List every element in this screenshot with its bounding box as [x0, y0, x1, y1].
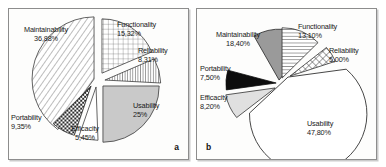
label-usability-a: Usability 25% [133, 102, 185, 119]
label-functionality-a: Functionality 15,32% [117, 21, 185, 38]
label-pct: 8,31% [138, 56, 190, 65]
label-text: Usability [133, 101, 159, 110]
label-maintainability-a: Maintainability 36,88% [15, 26, 77, 43]
label-functionality-b: Functionality 13,10% [298, 23, 362, 40]
label-usability-b: Usability 47,80% [307, 120, 365, 137]
pie-chart-panel-a: Maintainability 36,88% Functionality 15,… [8, 8, 189, 160]
label-text: Reliability [138, 46, 168, 55]
label-text: Usability [307, 119, 333, 128]
label-pct: 5,00% [329, 56, 377, 65]
label-text: Functionality [298, 22, 337, 31]
label-portability-a: Portability 9,35% [11, 114, 63, 131]
figure-container: Maintainability 36,88% Functionality 15,… [0, 0, 386, 167]
label-text: Maintainability [24, 25, 68, 34]
panel-tag-a: a [174, 142, 179, 152]
label-pct: 47,80% [307, 129, 365, 138]
label-text: Reliability [329, 46, 359, 55]
label-pct: 18,40% [205, 40, 271, 49]
label-pct: 13,10% [298, 32, 362, 41]
label-maintainability-b: Maintainability 18,40% [205, 31, 271, 48]
label-reliability-a: Reliability 8,31% [138, 47, 190, 64]
label-portability-b: Portability 7,50% [200, 65, 252, 82]
panel-tag-b: b [206, 142, 211, 152]
label-text: Efficacity [71, 124, 99, 133]
label-text: Portability [200, 64, 230, 73]
label-reliability-b: Reliability 5,00% [329, 47, 377, 64]
label-pct: 8,20% [200, 103, 252, 112]
label-pct: 9,35% [11, 123, 63, 132]
label-pct: 15,32% [117, 30, 185, 39]
label-text: Functionality [117, 20, 156, 29]
label-text: Efficacity [200, 93, 228, 102]
label-pct: 5,45% [60, 134, 110, 143]
label-pct: 7,50% [200, 74, 252, 83]
pie-chart-panel-b: Maintainability 18,40% Functionality 13,… [196, 8, 377, 160]
label-efficacity-a: Efficacity 5,45% [60, 125, 110, 142]
label-pct: 25% [133, 111, 185, 120]
label-text: Portability [11, 113, 41, 122]
label-text: Maintainability [216, 30, 260, 39]
label-efficacity-b: Efficacity 8,20% [200, 94, 252, 111]
label-pct: 36,88% [15, 35, 77, 44]
